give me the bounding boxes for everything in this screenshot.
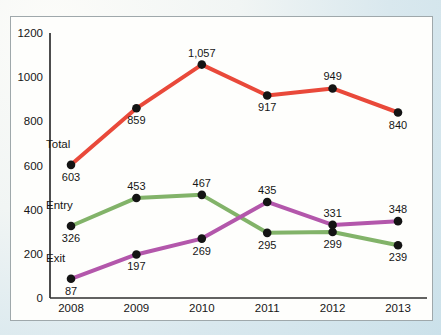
value-label-total-2013: 840 (389, 119, 407, 131)
data-point-exit-2008 (67, 274, 76, 283)
series-label-entry: Entry (46, 199, 73, 211)
value-label-exit-2009: 197 (127, 260, 145, 272)
data-point-entry-2009 (132, 194, 141, 203)
value-label-exit-2011: 435 (258, 184, 276, 196)
value-label-total-2012: 949 (323, 70, 341, 82)
data-point-total-2011 (263, 91, 272, 100)
data-point-total-2008 (67, 161, 76, 170)
value-label-total-2009: 859 (127, 114, 145, 126)
y-tick-label: 200 (24, 248, 43, 260)
value-label-entry-2009: 453 (127, 180, 145, 192)
data-point-exit-2009 (132, 250, 141, 259)
x-tick-label-2010: 2010 (189, 302, 215, 314)
value-label-exit-2013: 348 (389, 203, 407, 215)
x-tick-label-2013: 2013 (385, 302, 411, 314)
y-tick-label: 400 (24, 204, 43, 216)
data-point-total-2013 (394, 108, 403, 117)
x-tick-label-2008: 2008 (58, 302, 84, 314)
value-label-entry-2012: 299 (323, 238, 341, 250)
series-label-total: Total (46, 138, 70, 150)
series-line-total (71, 65, 398, 165)
y-tick-label: 1200 (17, 27, 43, 39)
series-label-exit: Exit (46, 252, 66, 264)
data-point-entry-2008 (67, 222, 76, 231)
value-label-entry-2011: 295 (258, 239, 276, 251)
y-tick-label: 1000 (17, 71, 43, 83)
line-chart: 0200400600800100012002008200920102011201… (11, 17, 432, 320)
x-tick-label-2011: 2011 (255, 302, 280, 314)
chart-panel: 0200400600800100012002008200920102011201… (10, 16, 433, 321)
data-point-entry-2011 (263, 229, 272, 238)
y-tick-label: 0 (37, 292, 43, 304)
value-label-total-2010: 1,057 (188, 47, 216, 59)
data-point-total-2010 (198, 60, 207, 69)
data-point-exit-2010 (198, 234, 207, 243)
data-point-total-2009 (132, 104, 141, 113)
data-point-entry-2010 (198, 191, 207, 200)
y-tick-label: 600 (24, 160, 43, 172)
data-point-exit-2011 (263, 198, 272, 207)
x-tick-label-2009: 2009 (124, 302, 150, 314)
value-label-entry-2013: 239 (389, 251, 407, 263)
value-label-exit-2012: 331 (323, 207, 341, 219)
value-label-entry-2008: 326 (62, 232, 80, 244)
value-label-total-2008: 603 (62, 171, 80, 183)
y-tick-label: 800 (24, 115, 43, 127)
data-point-entry-2013 (394, 241, 403, 250)
data-point-total-2012 (328, 84, 337, 93)
data-point-exit-2013 (394, 217, 403, 226)
data-point-exit-2012 (328, 221, 337, 230)
value-label-exit-2010: 269 (193, 245, 211, 257)
value-label-exit-2008: 87 (65, 285, 77, 297)
value-label-total-2011: 917 (258, 101, 276, 113)
value-label-entry-2010: 467 (193, 177, 211, 189)
x-tick-label-2012: 2012 (320, 302, 346, 314)
